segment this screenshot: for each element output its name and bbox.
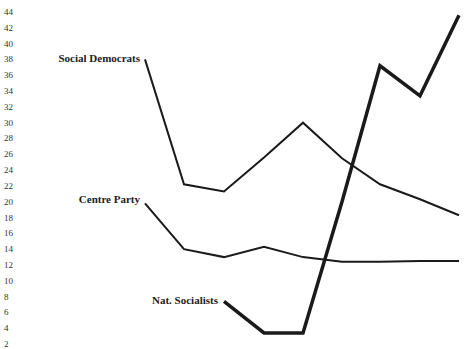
- y-tick-label: 32: [4, 102, 13, 112]
- y-tick-label: 38: [4, 54, 14, 64]
- series-line-social-democrats: [145, 59, 459, 215]
- y-tick-label: 16: [4, 228, 14, 238]
- y-tick-label: 8: [4, 292, 9, 302]
- y-tick-label: 34: [4, 86, 14, 96]
- y-tick-label: 4: [4, 323, 9, 333]
- y-tick-label: 36: [4, 70, 14, 80]
- y-tick-label: 28: [4, 133, 14, 143]
- y-tick-label: 6: [4, 307, 9, 317]
- series-labels: Social DemocratsCentre PartyNat. Sociali…: [58, 52, 218, 306]
- series-line-centre-party: [145, 203, 459, 261]
- y-tick-label: 26: [4, 149, 14, 159]
- y-tick-label: 18: [4, 213, 14, 223]
- y-tick-label: 22: [4, 181, 13, 191]
- y-tick-label: 44: [4, 7, 14, 17]
- y-tick-label: 12: [4, 260, 13, 270]
- y-axis-ticks: 4442403836343230282624222018161412108642: [4, 7, 14, 349]
- y-tick-label: 2: [4, 339, 9, 349]
- y-tick-label: 24: [4, 165, 14, 175]
- y-tick-label: 10: [4, 276, 14, 286]
- series-line-nat-socialists: [224, 15, 459, 333]
- y-tick-label: 42: [4, 23, 13, 33]
- y-tick-label: 14: [4, 244, 14, 254]
- y-tick-label: 30: [4, 118, 14, 128]
- y-tick-label: 20: [4, 197, 14, 207]
- series-lines: [145, 15, 459, 333]
- series-label: Social Democrats: [58, 52, 140, 64]
- series-label: Centre Party: [79, 193, 141, 205]
- line-chart: 4442403836343230282624222018161412108642…: [0, 0, 468, 349]
- y-tick-label: 40: [4, 39, 14, 49]
- series-label: Nat. Socialists: [152, 294, 219, 306]
